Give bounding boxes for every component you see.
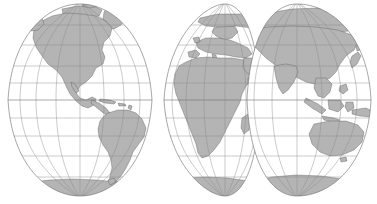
world-map-figure bbox=[0, 0, 377, 204]
tasmania-shape bbox=[340, 157, 347, 162]
world-map-canvas bbox=[0, 0, 377, 204]
